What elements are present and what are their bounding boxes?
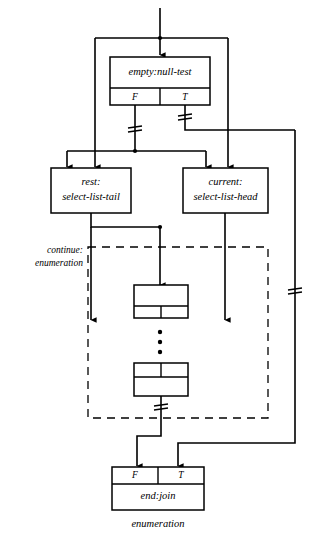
bus-drop-arrows [95, 150, 228, 167]
node-current-select-list-head[interactable]: current: select-list-head [183, 168, 268, 213]
port-label-end-join-true: T [178, 470, 184, 480]
node-rest-select-list-tail[interactable]: rest: select-list-tail [51, 168, 131, 213]
node-label-current-line2: select-list-head [193, 191, 258, 202]
diagram-caption: enumeration [131, 518, 184, 529]
wire-rest-output [91, 213, 160, 227]
port-label-end-join-false: F [131, 470, 138, 480]
region-label-line2: enumeration [35, 258, 83, 268]
port-label-null-test-true: T [182, 92, 188, 102]
region-label-line1: continue: [47, 245, 83, 255]
node-empty-null-test[interactable]: empty:null-test F T [110, 57, 210, 105]
wire-null-test-true [178, 105, 295, 130]
node-label-rest-line1: rest: [82, 176, 101, 187]
wire-region-output [137, 396, 168, 466]
enumeration-diagram: empty:null-test F T [0, 0, 314, 541]
node-label-rest-line2: select-list-tail [62, 191, 120, 202]
wire-region-input [158, 225, 162, 285]
node-inner-bottom[interactable] [134, 363, 188, 396]
node-label-empty-null-test: empty:null-test [129, 66, 193, 77]
node-end-join[interactable]: F T end:join [112, 467, 204, 510]
node-inner-top[interactable] [134, 285, 188, 318]
node-label-current-line1: current: [208, 176, 242, 187]
ellipsis-vertical [158, 330, 162, 354]
node-label-end-join: end:join [141, 490, 176, 501]
port-label-null-test-false: F [131, 92, 138, 102]
diagram-canvas: empty:null-test F T [0, 0, 314, 541]
